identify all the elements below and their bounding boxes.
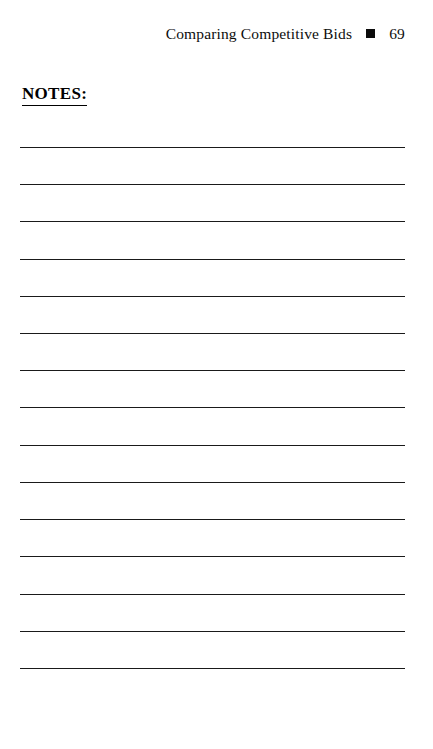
note-line[interactable] xyxy=(20,147,405,148)
note-line[interactable] xyxy=(20,445,405,446)
note-line[interactable] xyxy=(20,519,405,520)
note-line[interactable] xyxy=(20,221,405,222)
notes-page: Comparing Competitive Bids 69 NOTES: xyxy=(0,0,433,749)
note-line[interactable] xyxy=(20,259,405,260)
note-line[interactable] xyxy=(20,482,405,483)
note-line[interactable] xyxy=(20,333,405,334)
note-line[interactable] xyxy=(20,631,405,632)
note-line[interactable] xyxy=(20,556,405,557)
notes-ruled-lines xyxy=(0,0,433,749)
note-line[interactable] xyxy=(20,370,405,371)
note-line[interactable] xyxy=(20,594,405,595)
note-line[interactable] xyxy=(20,668,405,669)
note-line[interactable] xyxy=(20,296,405,297)
note-line[interactable] xyxy=(20,184,405,185)
note-line[interactable] xyxy=(20,407,405,408)
